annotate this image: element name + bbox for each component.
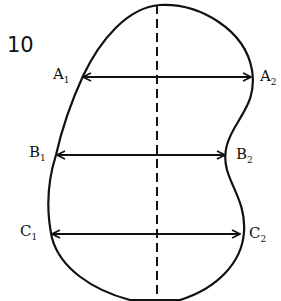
shape-outline [49, 5, 253, 300]
label-b1: B1 [29, 143, 46, 163]
label-a2: A2 [259, 67, 277, 87]
label-c1: C1 [20, 222, 37, 242]
label-b2: B2 [236, 145, 253, 165]
kidney-shape-diagram: 10 A1 A2 B1 B2 C1 C2 [0, 0, 281, 301]
label-a1: A1 [52, 65, 70, 85]
label-c2: C2 [249, 224, 266, 244]
figure-number: 10 [7, 33, 34, 57]
